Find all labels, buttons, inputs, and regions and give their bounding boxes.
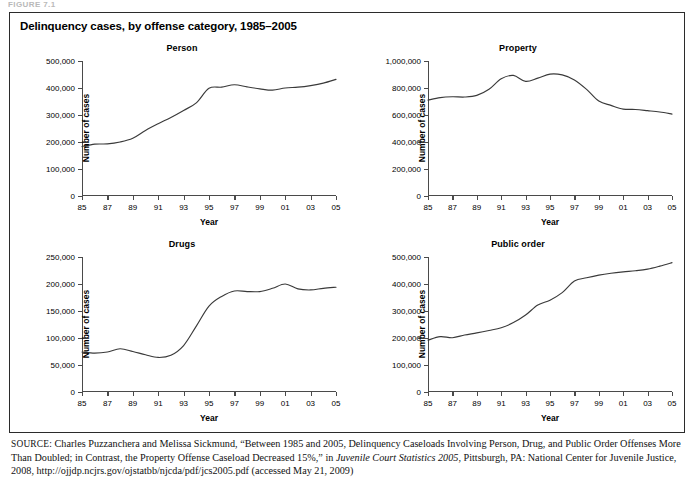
figure-page: FIGURE 7.1 Delinquency cases, by offense…	[0, 0, 694, 479]
y-tick-label: 200,000	[392, 165, 421, 174]
chart-title: Property	[350, 43, 686, 53]
x-tick	[184, 196, 185, 200]
y-tick-label: 100,000	[46, 165, 75, 174]
x-tick	[452, 392, 453, 396]
y-tick-label: 200,000	[46, 280, 75, 289]
x-tick	[648, 392, 649, 396]
y-tick	[78, 257, 82, 258]
y-tick-label: 50,000	[51, 361, 75, 370]
y-tick-label: 400,000	[392, 138, 421, 147]
x-tick-label: 97	[570, 203, 579, 212]
x-tick-label: 97	[230, 399, 239, 408]
x-tick-label: 05	[668, 203, 677, 212]
plot-area: Year Number of cases 0100,000200,000300,…	[82, 61, 336, 196]
x-tick	[133, 196, 134, 200]
y-tick	[78, 142, 82, 143]
x-tick	[209, 196, 210, 200]
x-tick	[260, 196, 261, 200]
y-tick-label: 0	[71, 388, 75, 397]
y-tick	[424, 88, 428, 89]
chart-panel-property: Property Year Number of cases 0200,00040…	[350, 43, 686, 239]
x-tick-label: 91	[154, 203, 163, 212]
x-tick-label: 03	[643, 399, 652, 408]
x-tick	[107, 392, 108, 396]
x-tick-label: 85	[78, 203, 87, 212]
y-tick-label: 1,000,000	[385, 57, 421, 66]
y-tick-label: 200,000	[392, 334, 421, 343]
x-tick	[550, 196, 551, 200]
x-tick	[599, 392, 600, 396]
x-tick-label: 97	[230, 203, 239, 212]
x-axis-title: Year	[428, 217, 672, 227]
x-tick	[428, 392, 429, 396]
x-axis-title: Year	[428, 413, 672, 423]
y-tick	[424, 115, 428, 116]
x-tick	[260, 392, 261, 396]
chart-title: Public order	[350, 239, 686, 249]
source-label: SOURCE:	[11, 439, 52, 449]
chart-title: Drugs	[14, 239, 350, 249]
x-tick-label: 99	[594, 203, 603, 212]
x-tick-label: 87	[448, 203, 457, 212]
x-tick-label: 89	[128, 203, 137, 212]
y-tick-label: 500,000	[46, 57, 75, 66]
x-tick-label: 91	[154, 399, 163, 408]
x-tick-label: 99	[594, 399, 603, 408]
x-tick-label: 95	[205, 399, 214, 408]
figure-number-caption: FIGURE 7.1	[8, 0, 128, 9]
chart-panel-person: Person Year Number of cases 0100,000200,…	[14, 43, 350, 239]
x-tick	[501, 196, 502, 200]
y-tick-label: 400,000	[46, 84, 75, 93]
y-tick-label: 100,000	[46, 334, 75, 343]
x-tick	[285, 392, 286, 396]
x-tick	[311, 392, 312, 396]
source-italic-title: Juvenile Court Statistics 2005	[336, 452, 459, 463]
x-tick	[158, 196, 159, 200]
x-tick-label: 03	[306, 203, 315, 212]
y-tick	[424, 169, 428, 170]
plot-area: Year Number of cases 0100,000200,000300,…	[428, 257, 672, 392]
x-tick	[82, 392, 83, 396]
y-axis-title: Number of cases	[81, 268, 91, 380]
y-tick-label: 800,000	[392, 84, 421, 93]
y-tick-label: 0	[71, 192, 75, 201]
y-tick-label: 150,000	[46, 307, 75, 316]
x-tick	[672, 196, 673, 200]
y-tick-label: 600,000	[392, 111, 421, 120]
y-tick	[424, 338, 428, 339]
y-tick	[424, 311, 428, 312]
x-tick	[574, 392, 575, 396]
x-tick	[336, 392, 337, 396]
x-tick	[477, 196, 478, 200]
x-tick	[452, 196, 453, 200]
plot-area: Year Number of cases 0200,000400,000600,…	[428, 61, 672, 196]
y-tick-label: 250,000	[46, 253, 75, 262]
chart-panel-public-order: Public order Year Number of cases 0100,0…	[350, 239, 686, 433]
x-tick	[234, 196, 235, 200]
y-tick	[78, 311, 82, 312]
x-tick-label: 89	[472, 203, 481, 212]
x-tick	[550, 392, 551, 396]
x-tick-label: 93	[521, 399, 530, 408]
plot-area: Year Number of cases 050,000100,000150,0…	[82, 257, 336, 392]
x-tick	[82, 196, 83, 200]
y-tick	[424, 142, 428, 143]
chart-panel-drugs: Drugs Year Number of cases 050,000100,00…	[14, 239, 350, 433]
y-tick-label: 300,000	[392, 307, 421, 316]
source-note: SOURCE: Charles Puzzanchera and Melissa …	[11, 437, 683, 478]
x-tick-label: 93	[179, 399, 188, 408]
x-tick-label: 03	[306, 399, 315, 408]
x-tick-label: 87	[103, 203, 112, 212]
x-tick	[526, 392, 527, 396]
x-tick-label: 95	[546, 203, 555, 212]
y-tick-label: 200,000	[46, 138, 75, 147]
page-title: Delinquency cases, by offense category, …	[20, 20, 297, 32]
x-tick-label: 03	[643, 203, 652, 212]
x-tick-label: 91	[497, 203, 506, 212]
x-tick-label: 01	[281, 203, 290, 212]
x-tick-label: 95	[205, 203, 214, 212]
x-tick	[209, 392, 210, 396]
series-line-person	[82, 61, 336, 196]
series-line-property	[428, 61, 672, 196]
x-tick	[623, 392, 624, 396]
